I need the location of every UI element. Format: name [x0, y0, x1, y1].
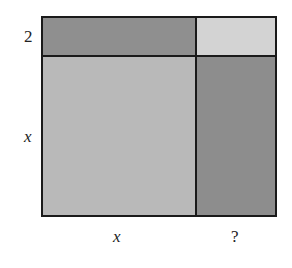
- outer-border: [41, 16, 277, 217]
- area-model-diagram: 2 x x ?: [0, 0, 292, 268]
- label-width-left: x: [113, 228, 121, 245]
- label-height-top: 2: [24, 28, 33, 45]
- label-height-bottom: x: [24, 128, 32, 145]
- horizontal-divider: [41, 55, 277, 57]
- label-width-right-unknown: ?: [231, 228, 239, 245]
- vertical-divider: [195, 16, 197, 217]
